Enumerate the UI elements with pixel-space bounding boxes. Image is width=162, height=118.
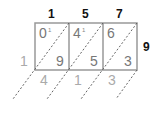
- multiplicand-digit: 7: [116, 8, 123, 20]
- cell-ones-digit: 9: [56, 54, 64, 68]
- cell-ones-digit: 5: [90, 54, 98, 68]
- result-digit-thousands: 1: [20, 54, 28, 68]
- result-digit-ones: 3: [108, 73, 116, 87]
- cell-tens-digit: 0: [39, 26, 47, 40]
- multiplicand-digit: 5: [82, 8, 89, 20]
- result-digit-hundreds: 4: [40, 73, 48, 87]
- diagonal-line: [116, 70, 137, 99]
- multiplier-digit: 9: [143, 41, 150, 53]
- cell-ones-digit: 3: [124, 54, 132, 68]
- result-digit-tens: 1: [74, 73, 82, 87]
- carry-mark: 1: [82, 27, 85, 33]
- multiplicand-digit: 1: [48, 8, 55, 20]
- carry-mark: 1: [48, 27, 51, 33]
- cell-tens-digit: 4: [73, 26, 81, 40]
- cell-tens-digit: 6: [107, 26, 115, 40]
